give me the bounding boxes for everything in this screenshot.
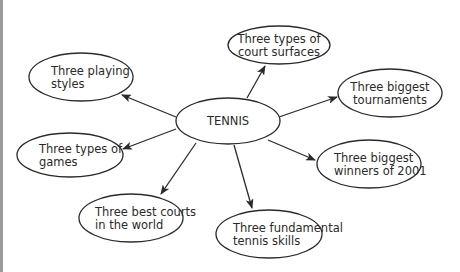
- node-label-line: games: [39, 155, 78, 169]
- arrow-line: [234, 145, 252, 208]
- node-label-line: in the world: [95, 218, 163, 232]
- arrow-to-fundamental-skills: [234, 145, 252, 208]
- node-best-courts: Three best courtsin the world: [79, 194, 196, 242]
- tennis-mind-map: Three types ofcourt surfacesThree playin…: [0, 0, 460, 272]
- arrow-to-biggest-tournaments: [279, 97, 337, 117]
- node-label-line: Three fundamental: [232, 221, 343, 235]
- node-label-line: tournaments: [353, 93, 427, 107]
- arrow-line: [123, 129, 176, 149]
- node-label-line: styles: [51, 77, 85, 91]
- node-court-surfaces: Three types ofcourt surfaces: [228, 26, 330, 64]
- node-label-line: Three biggest: [349, 80, 430, 94]
- node-biggest-tournaments: Three biggesttournaments: [338, 69, 442, 117]
- node-label-line: Three biggest: [333, 151, 414, 165]
- arrow-to-types-of-games: [123, 129, 176, 149]
- arrow-to-court-surfaces: [247, 66, 265, 98]
- center-node-tennis: TENNIS: [176, 98, 280, 144]
- arrow-line: [247, 66, 265, 98]
- arrow-line: [279, 97, 337, 117]
- node-biggest-winners: Three biggestwinners of 2001: [317, 140, 427, 188]
- node-label-line: winners of 2001: [334, 164, 427, 178]
- arrow-to-biggest-winners: [268, 140, 315, 160]
- node-types-of-games: Three types ofgames: [17, 133, 123, 177]
- center-label: TENNIS: [206, 114, 249, 128]
- arrow-to-playing-styles: [122, 95, 176, 117]
- node-label-line: Three types of: [236, 32, 321, 46]
- node-fundamental-skills: Three fundamentaltennis skills: [216, 210, 343, 258]
- node-label-line: Three types of: [38, 142, 123, 156]
- arrow-to-best-courts: [161, 143, 196, 194]
- node-playing-styles: Three playingstyles: [29, 53, 133, 101]
- node-label-line: Three playing: [50, 64, 130, 78]
- arrow-line: [122, 95, 176, 117]
- node-label-line: court surfaces: [238, 45, 320, 59]
- arrow-line: [161, 143, 196, 194]
- node-label-line: tennis skills: [233, 234, 300, 248]
- node-label-line: Three best courts: [94, 205, 196, 219]
- arrow-line: [268, 140, 315, 160]
